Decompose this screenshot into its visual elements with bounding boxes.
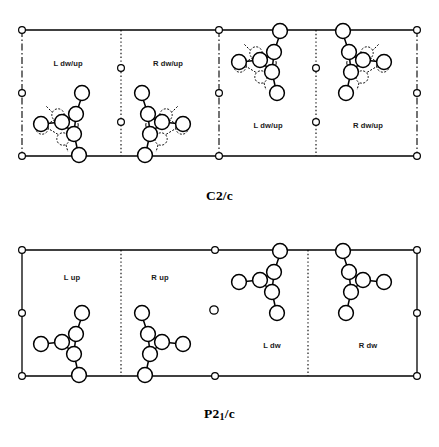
panel-c2c: L dw/up R dw/up L dw/up R dw/up C2/c xyxy=(0,18,439,180)
space-group-suffix: /c xyxy=(225,406,235,421)
molecule-label: R dw xyxy=(359,341,378,350)
crystal-packing-figure: L dw/up R dw/up L dw/up R dw/up C2/c xyxy=(0,0,439,447)
inversion-center-marker xyxy=(210,306,218,314)
unit-cell-diagram-c2c: L dw/up R dw/up L dw/up R dw/up xyxy=(0,18,439,180)
molecule-label: L dw/up xyxy=(53,59,83,68)
molecule-label: L dw xyxy=(263,341,281,350)
space-group-label-p21c: P21/c xyxy=(0,406,439,422)
molecule-r-dw xyxy=(336,244,392,321)
molecule-label: L up xyxy=(64,273,81,282)
molecule-l-dw-up-2 xyxy=(232,24,288,101)
molecule-l-up xyxy=(34,306,90,383)
molecule-r-dw-up-1 xyxy=(135,86,191,163)
space-group-prefix: P2 xyxy=(204,406,219,421)
molecule-l-dw xyxy=(232,244,288,321)
panel-p21c: L up R up L dw R dw P21/c xyxy=(0,238,439,398)
molecule-label: R dw/up xyxy=(153,59,183,68)
molecule-r-dw-up-2 xyxy=(336,24,392,101)
space-group-label-c2c: C2/c xyxy=(0,188,439,204)
molecule-r-up xyxy=(135,306,191,383)
molecule-label: L dw/up xyxy=(253,121,283,130)
molecule-l-dw-up-1 xyxy=(34,86,90,163)
unit-cell-diagram-p21c: L up R up L dw R dw xyxy=(0,238,439,398)
molecule-label: R up xyxy=(151,273,169,282)
space-group-text: C2/c xyxy=(206,188,233,203)
molecule-label: R dw/up xyxy=(353,121,383,130)
